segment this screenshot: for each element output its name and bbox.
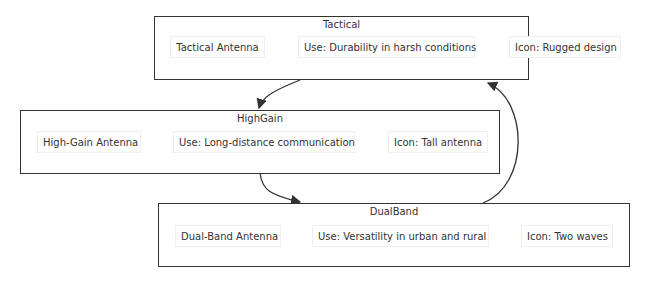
node-dualband-icon[interactable]: Icon: Two waves — [521, 225, 613, 247]
node-tactical-antenna[interactable]: Tactical Antenna — [170, 36, 265, 58]
node-highgain-use[interactable]: Use: Long-distance communication — [173, 131, 355, 153]
cluster-title: DualBand — [159, 206, 629, 217]
cluster-highgain: HighGain High-Gain Antenna Use: Long-dis… — [20, 110, 500, 174]
node-tactical-use[interactable]: Use: Durability in harsh conditions — [298, 36, 475, 58]
cluster-title: HighGain — [21, 113, 499, 124]
node-tactical-icon[interactable]: Icon: Rugged design — [509, 36, 621, 58]
cluster-title: Tactical — [155, 19, 528, 30]
edge-highgain-dualband — [260, 173, 300, 202]
edge-tactical-highgain — [259, 80, 300, 108]
node-dualband-antenna[interactable]: Dual-Band Antenna — [175, 225, 281, 247]
cluster-tactical: Tactical Tactical Antenna Use: Durabilit… — [154, 16, 529, 80]
node-highgain-antenna[interactable]: High-Gain Antenna — [37, 131, 141, 153]
node-dualband-use[interactable]: Use: Versatility in urban and rural — [312, 225, 489, 247]
node-highgain-icon[interactable]: Icon: Tall antenna — [388, 131, 488, 153]
cluster-dualband: DualBand Dual-Band Antenna Use: Versatil… — [158, 203, 630, 267]
